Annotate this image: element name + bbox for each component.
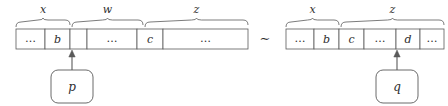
- brace-label-z-2: z: [193, 3, 200, 16]
- brace-z-2: [145, 18, 248, 27]
- pointer-arrowhead: [394, 50, 400, 57]
- left-sequence: xwz…b…c…p: [16, 3, 248, 103]
- brace-z-1: [341, 18, 444, 27]
- brace-w-1: [72, 18, 143, 27]
- relation-symbol: ∼: [260, 31, 271, 46]
- brace-label-w-1: w: [103, 3, 113, 16]
- brace-label-z-1: z: [389, 3, 396, 16]
- brace-x-0: [286, 18, 339, 27]
- cell-ellipsis: …: [295, 32, 306, 45]
- cell-symbol-c: c: [147, 33, 153, 46]
- right-sequence: xz…bc…d…q: [286, 3, 444, 103]
- figure-canvas: xwz…b…c…pxz…bc…d…q∼: [0, 0, 448, 106]
- cell-ellipsis: …: [25, 32, 36, 45]
- brace-label-x-0: x: [40, 3, 47, 16]
- cell-ellipsis: …: [427, 32, 438, 45]
- cell-symbol-c: c: [348, 33, 354, 46]
- cell-symbol-d: d: [404, 33, 411, 46]
- cell-ellipsis: …: [375, 32, 386, 45]
- cell-symbol-b: b: [54, 33, 61, 46]
- cell-ellipsis: …: [200, 32, 211, 45]
- brace-x-0: [16, 18, 70, 27]
- cell-symbol-b: b: [323, 33, 330, 46]
- cell-box: [70, 29, 87, 49]
- pointer-label-q: q: [393, 80, 401, 94]
- pointer-arrowhead: [69, 50, 75, 57]
- pointer-label-p: p: [68, 80, 76, 94]
- brace-label-x-0: x: [309, 3, 316, 16]
- cell-ellipsis: …: [107, 32, 118, 45]
